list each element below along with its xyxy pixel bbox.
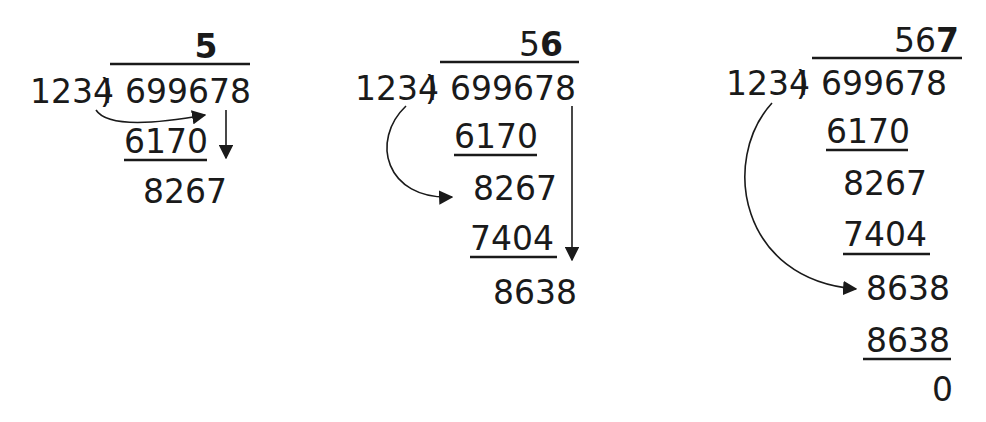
remainder-row: 8638: [866, 269, 950, 308]
long-division-diagram: 5 1234 ) 699678 6170 8267 5 6 1234 ) 699…: [0, 0, 986, 422]
division-bracket: ): [425, 69, 438, 108]
remainder-row: 8267: [843, 164, 927, 203]
product-row: 8638: [866, 321, 950, 360]
quotient-new-digit: 7: [936, 21, 959, 60]
product-row: 7404: [470, 219, 554, 258]
division-bracket: ): [100, 72, 113, 111]
product-row: 6170: [124, 122, 208, 161]
curved-arrow-icon: [96, 110, 205, 122]
product-row: 6170: [826, 112, 910, 151]
product-row: 6170: [454, 117, 538, 156]
quotient-new-digit: 6: [540, 25, 563, 64]
remainder-row: 8638: [493, 273, 577, 312]
dividend: 699678: [450, 69, 576, 108]
division-step-1: 5 1234 ) 699678 6170 8267: [30, 27, 251, 211]
division-step-2: 5 6 1234 ) 699678 6170 8267 7404 8638: [355, 25, 579, 312]
dividend: 699678: [821, 64, 947, 103]
quotient-prev-digits: 5: [519, 25, 540, 64]
final-remainder: 0: [932, 370, 953, 409]
quotient-new-digit: 5: [195, 27, 218, 66]
quotient-prev-digits: 56: [894, 21, 936, 60]
remainder-row: 8267: [143, 172, 227, 211]
dividend: 699678: [125, 72, 251, 111]
product-row: 7404: [843, 215, 927, 254]
remainder-row: 8267: [473, 169, 557, 208]
curved-arrow-icon: [387, 106, 452, 197]
division-step-3: 56 7 1234 ) 699678 6170 8267 7404 8638 8…: [726, 21, 962, 409]
division-bracket: ): [796, 64, 809, 103]
